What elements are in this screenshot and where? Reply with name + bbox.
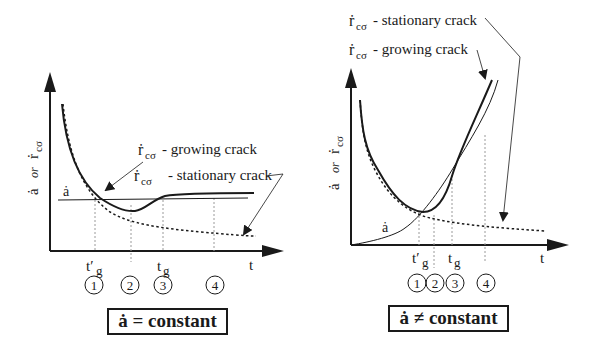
svg-text:ṙ: ṙ — [326, 149, 342, 154]
right-legend-growing-text: - growing crack — [373, 41, 468, 57]
svg-text:cσ: cσ — [32, 141, 44, 152]
right-legend-growing-symbol: ṙ — [349, 41, 355, 58]
left-condition-label: ȧ = constant — [107, 308, 228, 335]
left-legend-growing-symbol: ṙ — [138, 141, 144, 158]
right-stage-guides — [419, 135, 485, 268]
right-tg-label: t — [448, 250, 453, 266]
right-legend-stationary-symbol: ṙ — [349, 12, 355, 29]
left-panel: ȧ or ṙ cσ ȧ ṙ cσ - growing crack ṙ cσ - … — [25, 72, 284, 294]
right-growing-crack-curve — [360, 80, 492, 212]
right-t-prime-g-label: t′ — [412, 250, 419, 266]
right-panel: ȧ or ṙ cσ ȧ ṙ cσ - stationary crack ṙ cσ… — [326, 12, 569, 292]
right-x-axis-label: t — [540, 250, 545, 266]
crack-growth-diagram: ȧ or ṙ cσ ȧ ṙ cσ - growing crack ṙ cσ - … — [0, 0, 595, 357]
svg-text:4: 4 — [212, 278, 219, 293]
left-y-axis-label: ȧ or ṙ cσ — [25, 141, 44, 195]
svg-text:1: 1 — [414, 276, 421, 291]
left-growing-crack-curve — [62, 104, 254, 211]
right-tg-sub: g — [454, 255, 461, 270]
left-tg-label: t — [157, 258, 162, 274]
left-stage-markers: 1 2 3 4 — [85, 276, 224, 294]
right-y-axis-arrow-icon — [345, 68, 357, 88]
left-a-dot-label: ȧ — [63, 184, 70, 199]
left-legend-growing-text: - growing crack — [162, 141, 257, 157]
svg-text:ȧ: ȧ — [326, 183, 342, 190]
svg-text:2: 2 — [432, 276, 439, 291]
right-legend-stationary-text: - stationary crack — [373, 12, 478, 28]
right-t-prime-g-sub: g — [422, 255, 429, 270]
right-a-dot-label: ȧ — [382, 220, 389, 235]
svg-text:ṙ: ṙ — [25, 154, 41, 159]
svg-text:1: 1 — [91, 278, 98, 293]
left-x-axis-label: t — [249, 257, 254, 273]
left-stationary-leader — [244, 174, 283, 234]
left-legend-growing-sub: cσ — [145, 149, 156, 161]
right-legend-growing-sub: cσ — [356, 49, 367, 61]
left-t-prime-g-label: t′ — [86, 258, 93, 274]
svg-text:cσ: cσ — [333, 136, 345, 147]
right-condition-label: ȧ ≠ constant — [388, 305, 509, 332]
left-x-axis-arrow-icon — [262, 245, 284, 257]
svg-text:or: or — [27, 167, 41, 178]
svg-text:2: 2 — [127, 278, 134, 293]
right-growing-leader — [477, 50, 485, 78]
left-t-prime-g-sub: g — [96, 263, 103, 278]
left-legend-stationary-sub: cσ — [141, 175, 152, 187]
svg-text:or: or — [328, 162, 342, 173]
left-a-dot-line — [58, 198, 248, 200]
svg-text:3: 3 — [452, 276, 459, 291]
right-stage-markers: 1 2 3 4 — [408, 274, 495, 292]
svg-text:3: 3 — [160, 278, 167, 293]
left-y-axis-arrow-icon — [44, 72, 56, 92]
right-y-axis-label: ȧ or ṙ cσ — [326, 136, 345, 190]
right-legend-stationary-sub: cσ — [356, 20, 367, 32]
svg-text:ȧ: ȧ — [25, 188, 41, 195]
right-x-axis-arrow-icon — [547, 239, 569, 251]
svg-text:4: 4 — [483, 276, 490, 291]
left-stage-guides — [95, 198, 214, 262]
left-legend-stationary-symbol: ṙ — [134, 167, 140, 184]
right-stationary-leader — [485, 18, 520, 220]
left-legend-stationary-text: - stationary crack — [168, 167, 273, 183]
